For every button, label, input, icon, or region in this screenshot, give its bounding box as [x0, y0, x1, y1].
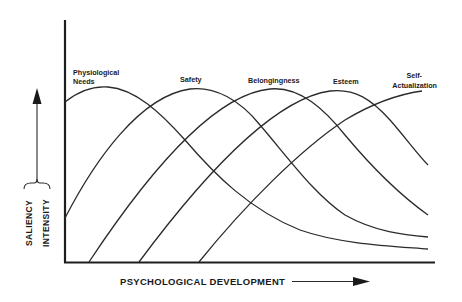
y-axis-brace — [24, 179, 50, 189]
label-physiological-needs-2: Needs — [73, 77, 95, 86]
curve-safety — [65, 89, 428, 237]
label-belongingness: Belongingness — [248, 76, 300, 85]
y-axis-label-saliency: SALIENCY — [24, 200, 34, 246]
y-axis-arrowhead-icon — [33, 88, 42, 104]
x-axis-label: PSYCHOLOGICAL DEVELOPMENT — [120, 276, 285, 287]
y-axis-label-intensity: INTENSITY — [41, 199, 51, 247]
label-physiological-needs-1: Physiological — [73, 68, 119, 77]
curve-self-actualization — [199, 91, 422, 262]
curve-esteem — [139, 91, 428, 262]
x-axis-arrowhead-icon — [353, 277, 370, 286]
maslow-needs-chart: Physiological Needs Safety Belongingness… — [0, 0, 462, 302]
label-esteem: Esteem — [333, 77, 359, 86]
label-safety: Safety — [180, 75, 202, 84]
label-self-actualization-2: Actualization — [392, 81, 437, 90]
label-self-actualization-1: Self- — [406, 71, 422, 80]
